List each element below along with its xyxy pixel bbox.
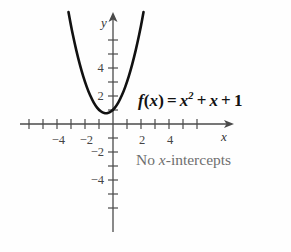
x-tick-label-4: 4 xyxy=(167,134,173,147)
equation-equals: = xyxy=(164,91,180,110)
y-tick-label-2: 2 xyxy=(97,90,103,103)
x-axis-label: x xyxy=(221,130,227,143)
equation-term3: 1 xyxy=(234,91,243,110)
annotation-variable: x xyxy=(159,151,166,168)
function-equation-label: f(x)=x2+x+1 xyxy=(138,92,243,109)
equation-plus-2: + xyxy=(218,91,234,110)
coordinate-plane xyxy=(0,0,291,252)
x-tick-label-2: 2 xyxy=(139,134,145,147)
equation-plus-1: + xyxy=(194,91,210,110)
annotation-lead: No xyxy=(136,151,159,168)
y-axis-label: y xyxy=(101,16,107,29)
y-tick-label-4: 4 xyxy=(97,62,103,75)
equation-term1-exponent: 2 xyxy=(188,90,193,101)
no-x-intercepts-annotation: No x-intercepts xyxy=(136,152,231,168)
annotation-tail: -intercepts xyxy=(166,151,231,168)
parabola-figure: −4−22442−2−4 y x f(x)=x2+x+1 No x-interc… xyxy=(0,0,291,252)
equation-arg: x xyxy=(150,91,159,110)
y-tick-label-neg4: −4 xyxy=(91,174,104,187)
equation-term2: x xyxy=(209,91,218,110)
y-tick-label-neg2: −2 xyxy=(91,146,104,159)
x-tick-label-neg4: −4 xyxy=(52,134,65,147)
